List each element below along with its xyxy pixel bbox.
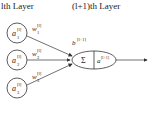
svg-text:1: 1 [37,30,39,35]
input-node-3: a 3 [l] [7,78,27,98]
neuron: Σ a [l+1] [72,51,116,69]
weight-2: w 2 [l] [32,48,42,60]
neuron-diagram: a 1 [l] a 2 [l] a 3 [l] w 1 [l] w 2 [l] … [0,0,149,114]
svg-text:[l]: [l] [37,48,42,53]
svg-text:[l]: [l] [17,54,22,59]
svg-text:a: a [12,56,16,65]
svg-text:[l]: [l] [37,71,42,76]
input-node-2: a 2 [l] [7,50,27,70]
svg-text:[l]: [l] [17,27,22,32]
sum-symbol: Σ [81,56,86,65]
svg-text:a: a [12,29,16,38]
svg-text:b: b [72,39,76,47]
weight-1: w 1 [l] [32,23,42,35]
svg-text:[l]: [l] [17,82,22,87]
input-node-1: a 1 [l] [7,23,27,43]
bias-label: b [l+1] [72,37,87,47]
svg-text:[l+1]: [l+1] [101,55,110,60]
svg-text:3: 3 [37,78,40,83]
svg-text:a: a [12,84,16,93]
svg-text:[l]: [l] [37,23,42,28]
svg-text:3: 3 [17,90,20,95]
svg-text:1: 1 [17,35,19,40]
svg-text:2: 2 [37,55,39,60]
svg-text:2: 2 [17,62,19,67]
weight-3: w 3 [l] [32,71,42,83]
svg-text:[l+1]: [l+1] [77,37,87,42]
